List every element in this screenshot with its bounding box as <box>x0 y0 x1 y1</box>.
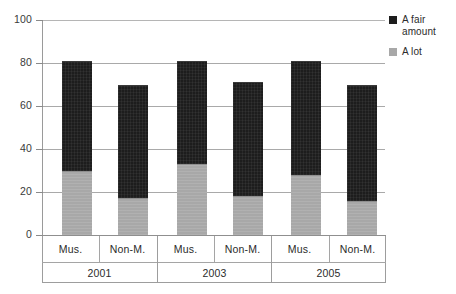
bar-2003-non-m <box>233 82 263 235</box>
category-label-2: Mus. <box>157 240 214 258</box>
y-tick-label-20: 20 <box>0 185 32 197</box>
bar-segment-a-lot <box>177 164 207 235</box>
y-tick-label-80: 80 <box>0 56 32 68</box>
bar-2001-mus <box>62 61 92 235</box>
bar-2005-non-m <box>347 85 377 235</box>
bar-segment-a-fair-amount <box>347 85 377 201</box>
bar-2003-mus <box>177 61 207 235</box>
legend-label-a-lot: A lot <box>402 46 455 58</box>
bar-segment-a-fair-amount <box>233 82 263 196</box>
bar-segment-a-fair-amount <box>177 61 207 164</box>
dark-square-swatch-icon <box>389 16 397 24</box>
bar-segment-a-lot <box>62 171 92 236</box>
legend-item-a-fair-amount: A fair amount <box>389 14 455 37</box>
category-label-5: Non-M. <box>329 240 386 258</box>
category-label-0: Mus. <box>42 240 99 258</box>
year-label-2003: 2003 <box>157 265 272 281</box>
bar-segment-a-lot <box>233 196 263 235</box>
table-bottom-border <box>42 282 386 283</box>
legend-item-a-lot: A lot <box>389 46 455 58</box>
category-label-3: Non-M. <box>214 240 271 258</box>
chart-legend: A fair amount A lot <box>389 14 455 62</box>
gray-square-swatch-icon <box>389 48 397 56</box>
y-tick-label-40: 40 <box>0 142 32 154</box>
bar-segment-a-fair-amount <box>291 61 321 175</box>
y-tick-label-100: 100 <box>0 13 32 25</box>
y-tick-label-0: 0 <box>0 228 32 240</box>
bar-segment-a-lot <box>347 201 377 235</box>
stacked-bar-chart-figure: 100806040200 A fair amount A lot Mus.Non… <box>0 0 456 294</box>
table-row-separator <box>42 262 386 263</box>
category-axis-table: Mus.Non-M.Mus.Non-M.Mus.Non-M. 200120032… <box>42 236 386 283</box>
bar-segment-a-fair-amount <box>62 61 92 171</box>
legend-label-a-fair-amount: A fair amount <box>402 14 455 37</box>
bar-segment-a-lot <box>118 198 148 235</box>
y-tick-label-60: 60 <box>0 99 32 111</box>
plot-area <box>42 20 385 235</box>
category-label-4: Mus. <box>271 240 328 258</box>
bar-segment-a-fair-amount <box>118 85 148 199</box>
bar-segment-a-lot <box>291 175 321 235</box>
bar-2001-non-m <box>118 85 148 235</box>
category-label-1: Non-M. <box>99 240 156 258</box>
year-label-2005: 2005 <box>271 265 386 281</box>
bar-2005-mus <box>291 61 321 235</box>
year-label-2001: 2001 <box>42 265 157 281</box>
